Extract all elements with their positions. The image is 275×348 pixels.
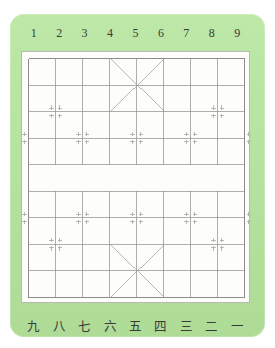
position-marker-arm bbox=[139, 212, 143, 216]
position-marker-arm bbox=[184, 140, 188, 144]
position-marker-arm bbox=[58, 114, 62, 118]
file-label-top: 2 bbox=[46, 24, 71, 42]
position-marker-arm bbox=[58, 246, 62, 250]
position-marker-arm bbox=[130, 212, 134, 216]
position-marker-arm bbox=[85, 220, 89, 224]
file-label-top: 9 bbox=[225, 24, 250, 42]
position-marker-arm bbox=[76, 140, 80, 144]
position-marker-arm bbox=[193, 140, 197, 144]
file-label-bottom: 六 bbox=[97, 318, 122, 336]
position-marker-arm bbox=[247, 220, 251, 224]
file-label-top: 6 bbox=[148, 24, 173, 42]
file-label-bottom: 二 bbox=[199, 318, 224, 336]
board-grid bbox=[22, 52, 251, 304]
position-marker-arm bbox=[130, 132, 134, 136]
position-marker-arm bbox=[22, 212, 26, 216]
position-marker-arm bbox=[184, 212, 188, 216]
position-marker-arm bbox=[211, 105, 215, 109]
position-marker-arm bbox=[184, 220, 188, 224]
position-marker-arm bbox=[211, 114, 215, 118]
file-label-bottom: 七 bbox=[72, 318, 97, 336]
position-marker-arm bbox=[220, 238, 224, 242]
file-label-top: 4 bbox=[97, 24, 122, 42]
xiangqi-board-screenshot: 1 2 3 4 5 6 7 8 9 九 八 七 六 五 四 三 二 一 bbox=[0, 0, 275, 348]
file-numbers-chinese: 九 八 七 六 五 四 三 二 一 bbox=[21, 318, 250, 336]
file-label-bottom: 一 bbox=[225, 318, 250, 336]
position-marker-arm bbox=[85, 140, 89, 144]
position-marker-arm bbox=[139, 220, 143, 224]
position-marker-arm bbox=[22, 140, 26, 144]
file-label-top: 5 bbox=[123, 24, 148, 42]
position-marker-arm bbox=[130, 220, 134, 224]
file-label-top: 3 bbox=[72, 24, 97, 42]
position-marker-arm bbox=[193, 212, 197, 216]
position-marker-arm bbox=[76, 220, 80, 224]
position-marker-arm bbox=[220, 114, 224, 118]
position-marker-arm bbox=[76, 212, 80, 216]
position-marker-arm bbox=[49, 105, 53, 109]
position-marker-arm bbox=[211, 238, 215, 242]
file-label-bottom: 三 bbox=[174, 318, 199, 336]
position-marker-arm bbox=[22, 220, 26, 224]
position-marker-arm bbox=[76, 132, 80, 136]
file-label-bottom: 八 bbox=[46, 318, 71, 336]
position-marker-arm bbox=[139, 140, 143, 144]
xiangqi-board[interactable] bbox=[21, 51, 250, 303]
file-label-bottom: 五 bbox=[123, 318, 148, 336]
file-label-bottom: 九 bbox=[21, 318, 46, 336]
position-marker-arm bbox=[130, 140, 134, 144]
position-marker-arm bbox=[49, 246, 53, 250]
file-label-top: 1 bbox=[21, 24, 46, 42]
position-marker-arm bbox=[139, 132, 143, 136]
position-marker-arm bbox=[193, 220, 197, 224]
position-marker-arm bbox=[247, 132, 251, 136]
position-marker-arm bbox=[85, 212, 89, 216]
file-label-top: 8 bbox=[199, 24, 224, 42]
position-marker-arm bbox=[58, 238, 62, 242]
position-marker-arm bbox=[220, 105, 224, 109]
position-marker-arm bbox=[247, 212, 251, 216]
file-numbers-arabic: 1 2 3 4 5 6 7 8 9 bbox=[21, 24, 250, 42]
position-marker-arm bbox=[193, 132, 197, 136]
position-marker-arm bbox=[184, 132, 188, 136]
position-marker-arm bbox=[49, 114, 53, 118]
file-label-bottom: 四 bbox=[148, 318, 173, 336]
position-marker-arm bbox=[247, 140, 251, 144]
file-label-top: 7 bbox=[174, 24, 199, 42]
position-marker-arm bbox=[211, 246, 215, 250]
position-marker-arm bbox=[58, 105, 62, 109]
position-marker-arm bbox=[22, 132, 26, 136]
position-marker-arm bbox=[220, 246, 224, 250]
position-marker-arm bbox=[85, 132, 89, 136]
position-marker-arm bbox=[49, 238, 53, 242]
